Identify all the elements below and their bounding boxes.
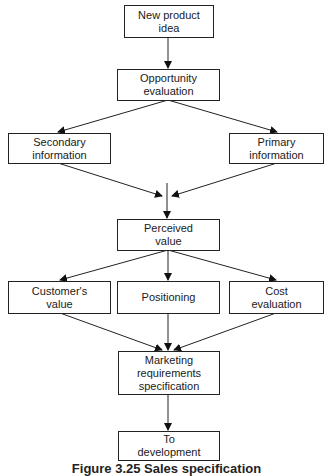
node-label: evaluation [251,298,301,311]
edge-primary-to-merge [172,163,277,196]
node-marketing-requirements-specification: Marketing requirements specification [118,351,220,395]
node-perceived-value: Perceived value [117,219,220,251]
node-positioning: Positioning [117,281,220,314]
node-secondary-information: Secondary information [8,133,111,164]
edge-opportunity-to-secondary [58,100,168,132]
edge-perceived-to-customers-value [60,250,168,280]
node-label: Cost [251,285,301,298]
node-new-product-idea: New product idea [124,5,214,38]
node-to-development: To development [118,431,220,461]
node-label: development [138,446,201,459]
node-label: value [144,235,193,248]
node-label: Opportunity [140,72,197,85]
node-label: New product [138,9,200,22]
node-label: idea [138,22,200,35]
node-label: To [138,433,201,446]
node-label: evaluation [140,85,197,98]
node-label: specification [137,380,201,393]
node-cost-evaluation: Cost evaluation [229,281,324,314]
node-label: Marketing [137,354,201,367]
node-label: Perceived [144,222,193,235]
node-label: Secondary [32,136,86,149]
node-customers-value: Customer's value [8,281,111,314]
edge-secondary-to-merge [58,163,162,196]
edge-opportunity-to-primary [168,100,277,132]
node-label: Positioning [142,291,196,304]
figure-caption: Figure 3.25 Sales specification [0,461,333,476]
node-label: requirements [137,367,201,380]
node-primary-information: Primary information [229,133,324,164]
node-label: information [249,149,303,162]
node-label: Customer's [32,285,87,298]
node-label: Primary [249,136,303,149]
edge-cost-to-marketing [174,313,276,350]
node-opportunity-evaluation: Opportunity evaluation [117,69,220,101]
edge-customers-value-to-marketing [60,313,162,350]
edge-perceived-to-cost [168,250,276,280]
node-label: information [32,149,86,162]
node-label: value [32,298,87,311]
